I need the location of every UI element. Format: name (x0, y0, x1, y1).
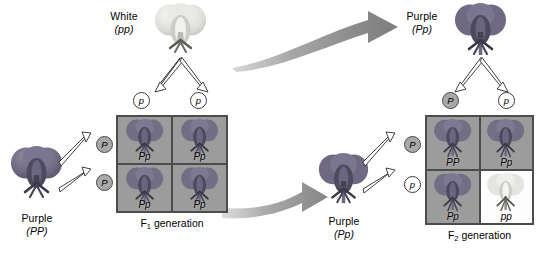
f1-top-gamete-1: p (190, 92, 207, 109)
f1-parent-label: Purple (Pp) (394, 10, 450, 35)
parent-purple-phenotype: Purple (22, 212, 53, 224)
f2-cell-3-genotype: pp (501, 211, 512, 222)
gamete-arrow-f1parent-right (476, 56, 518, 94)
f2-punnett-square: PP Pp (425, 115, 534, 225)
f1-parent-genotype: (Pp) (394, 23, 450, 36)
f2-top-gamete-0-label: P (447, 95, 453, 106)
f2-parent-label: Purple (Pp) (316, 215, 372, 240)
f1-cell-2: Pp (117, 164, 172, 212)
f1-top-gamete-0-label: p (139, 95, 144, 106)
f1-side-gamete-1: P (96, 174, 113, 191)
f1-parent-phenotype: Purple (407, 10, 438, 22)
gamete-arrow-f2parent-lower (362, 166, 402, 196)
parent-white-phenotype: White (110, 10, 137, 22)
f1-generation-suffix: generation (151, 217, 204, 229)
parent-white-genotype: (pp) (96, 23, 152, 36)
f1-generation-letter: F (140, 217, 146, 229)
gamete-arrow-purple-upper (58, 130, 98, 168)
f2-cell-0: PP (426, 116, 480, 170)
f1-cell-0: Pp (117, 116, 172, 164)
parent-white-label: White (pp) (96, 10, 152, 35)
gamete-arrow-f2parent-upper (362, 130, 402, 168)
f1-cell-1: Pp (172, 116, 227, 164)
f2-cell-0-genotype: PP (446, 157, 459, 168)
f2-top-gamete-1: p (498, 92, 515, 109)
f1-cell-0-genotype: Pp (138, 151, 150, 162)
f1-cell-3: Pp (172, 164, 227, 212)
parent-purple-label: Purple (PP) (9, 212, 65, 237)
f1-cell-2-genotype: Pp (138, 199, 150, 210)
gamete-arrow-purple-lower (58, 165, 98, 195)
f2-cell-2: Pp (426, 170, 480, 224)
f1-generation-label: F1 generation (116, 217, 228, 229)
f2-parent-phenotype: Purple (329, 215, 360, 227)
f1-side-gamete-0: P (96, 136, 113, 153)
f2-parent-genotype: (Pp) (316, 228, 372, 241)
f2-generation-label: F2 generation (425, 229, 534, 241)
f2-top-gamete-0: P (442, 92, 459, 109)
f1-side-gamete-1-label: P (101, 177, 107, 188)
f2-cell-3: pp (480, 170, 534, 224)
gamete-arrow-white-right (176, 56, 218, 94)
f1-cell-1-genotype: Pp (193, 151, 205, 162)
f2-cell-2-genotype: Pp (447, 211, 459, 222)
f2-cell-1: Pp (480, 116, 534, 170)
white-parent-flower (152, 2, 210, 60)
parent-purple-genotype: (PP) (9, 225, 65, 238)
f2-side-gamete-1-label: p (410, 179, 415, 190)
f2-top-gamete-1-label: p (504, 95, 509, 106)
f2-cell-1-genotype: Pp (500, 157, 512, 168)
f1-cell-3-genotype: Pp (193, 199, 205, 210)
f2-side-gamete-1: p (404, 176, 421, 193)
f2-generation-suffix: generation (459, 229, 512, 241)
f1-generation-subscript: 1 (147, 222, 151, 231)
f2-side-gamete-0: P (404, 136, 421, 153)
genetics-diagram: White (pp) (0, 0, 544, 261)
f1-parent-flower (452, 2, 510, 60)
f2-side-gamete-0-label: P (409, 139, 415, 150)
f1-punnett-square: Pp Pp (116, 115, 228, 213)
f1-side-gamete-0-label: P (101, 139, 107, 150)
f1-top-gamete-1-label: p (196, 95, 201, 106)
f1-top-gamete-0: p (133, 92, 150, 109)
f2-generation-subscript: 2 (454, 234, 458, 243)
